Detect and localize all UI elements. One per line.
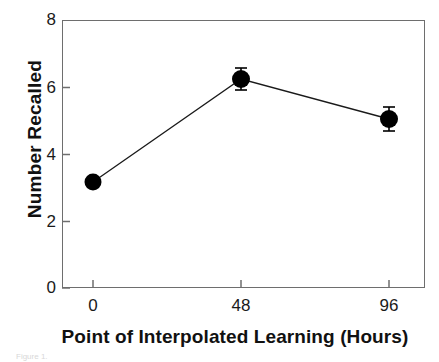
x-axis-ticks	[93, 280, 389, 288]
x-tick-label-0: 0	[68, 297, 118, 314]
data-point-marker	[380, 110, 398, 128]
y-axis-ticks	[62, 88, 70, 289]
x-tick-label-48: 48	[216, 297, 266, 314]
figure-container: 0 2 4 6 8 0 48 96 Number Recalled Point …	[0, 0, 439, 362]
x-axis-tick-labels: 0 48 96	[0, 297, 439, 319]
y-axis-title: Number Recalled	[24, 19, 46, 259]
data-point-marker	[232, 70, 250, 88]
data-point-marker	[85, 174, 102, 191]
x-axis-title: Point of Interpolated Learning (Hours)	[40, 326, 430, 348]
data-line	[93, 79, 389, 182]
x-tick-label-96: 96	[364, 297, 414, 314]
y-tick-label-0: 0	[30, 279, 56, 296]
figure-caption-sliver: Figure 1.	[16, 353, 426, 361]
